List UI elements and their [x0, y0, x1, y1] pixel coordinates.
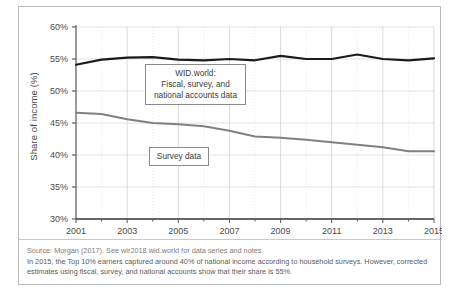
caption-note-line-1: In 2015, the Top 10% earners captured ar…: [27, 257, 434, 268]
annotation-wid-line-1: WID.world:: [152, 68, 239, 79]
line-chart: 30%35%40%45%50%55%60% 200120032005200720…: [19, 7, 442, 239]
annotation-survey-data: Survey data: [149, 147, 209, 166]
annotation-wid-line-2: Fiscal, survey, and: [152, 79, 239, 90]
x-tick-labels: 20012003200520072009201120132015: [66, 226, 442, 236]
svg-text:55%: 55%: [50, 54, 68, 64]
svg-text:60%: 60%: [50, 22, 68, 32]
svg-text:2013: 2013: [373, 226, 393, 236]
svg-text:2003: 2003: [117, 226, 137, 236]
svg-text:2009: 2009: [271, 226, 291, 236]
axis-layer: [72, 25, 434, 223]
figure-caption: Source: Morgan (2017). See wir2018.wid.w…: [19, 239, 442, 285]
svg-text:2011: 2011: [322, 226, 341, 236]
caption-source-line: Source: Morgan (2017). See wir2018.wid.w…: [27, 246, 434, 257]
svg-text:40%: 40%: [50, 150, 68, 160]
svg-text:2015: 2015: [424, 226, 442, 236]
svg-text:45%: 45%: [50, 118, 68, 128]
series-line-survey: [76, 113, 434, 151]
svg-text:50%: 50%: [50, 86, 68, 96]
annotation-wid-world: WID.world: Fiscal, survey, and national …: [145, 64, 246, 105]
svg-text:2001: 2001: [66, 226, 86, 236]
figure-container: Share of income (%) 30%35%40%45%50%55%60…: [18, 6, 441, 285]
svg-text:35%: 35%: [50, 182, 68, 192]
grid-layer: [76, 27, 434, 219]
plot-region: Share of income (%) 30%35%40%45%50%55%60…: [19, 7, 442, 239]
svg-text:2007: 2007: [219, 226, 239, 236]
y-tick-labels: 30%35%40%45%50%55%60%: [50, 22, 68, 224]
annotation-wid-line-3: national accounts data: [152, 90, 239, 101]
caption-note-line-2: estimates using fiscal, survey, and nati…: [27, 267, 434, 278]
svg-text:30%: 30%: [50, 214, 68, 224]
svg-text:2005: 2005: [168, 226, 188, 236]
annotation-survey-label: Survey data: [154, 151, 204, 162]
